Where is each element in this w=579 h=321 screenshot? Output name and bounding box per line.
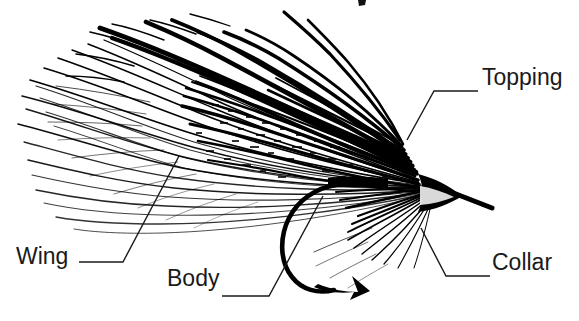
label-wing: Wing xyxy=(16,245,68,268)
fly-anatomy-figure: Topping Collar Wing Body xyxy=(0,0,579,321)
label-body: Body xyxy=(167,267,219,290)
label-topping: Topping xyxy=(482,66,563,89)
label-collar: Collar xyxy=(492,251,552,274)
